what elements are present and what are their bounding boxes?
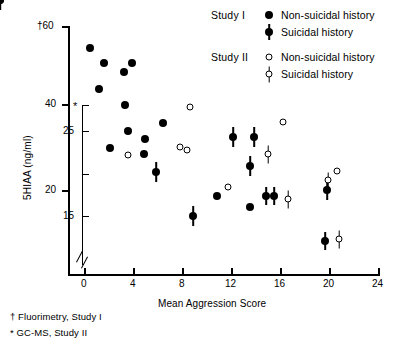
footnote-fluorimetry: † Fluorimetry, Study I [10,312,102,322]
figure-canvas: †60 40 20 25 15 * 0 4 8 12 16 20 24 5HIA… [0,0,400,346]
footnote-gcms: * GC-MS, Study II [10,328,87,338]
footnotes: † Fluorimetry, Study I * GC-MS, Study II [0,0,400,346]
